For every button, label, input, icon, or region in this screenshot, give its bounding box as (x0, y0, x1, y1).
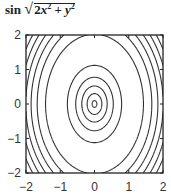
y-tick-label: 2 (14, 28, 21, 42)
contour-line (31, 35, 158, 173)
y-tick-label: −2 (7, 166, 21, 180)
contour-line (26, 35, 163, 173)
y-tick-label: 1 (14, 63, 21, 77)
y-tick-label: −1 (7, 132, 21, 146)
x-tick-label: −1 (53, 180, 67, 194)
contour-line (26, 35, 163, 173)
contour-plot: −2−1012−2−1012 (0, 0, 171, 196)
x-tick-label: 0 (91, 180, 98, 194)
contour-line (37, 35, 152, 173)
contour-line (26, 35, 163, 173)
y-tick-label: 0 (14, 97, 21, 111)
x-tick-label: 1 (125, 180, 132, 194)
contour-line (26, 35, 163, 173)
contour-lines (26, 35, 163, 173)
contour-line (46, 35, 144, 173)
x-tick-label: −2 (19, 180, 33, 194)
plot-frame (26, 35, 163, 173)
x-tick-label: 2 (160, 180, 167, 194)
